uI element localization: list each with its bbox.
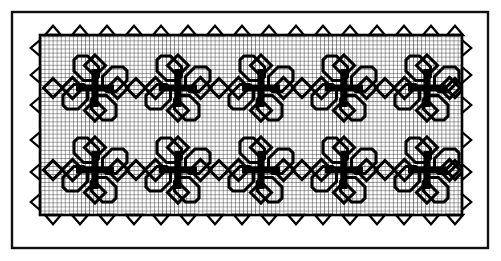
lace-pattern-illustration: [0, 0, 501, 261]
pattern-plate: [0, 0, 501, 261]
